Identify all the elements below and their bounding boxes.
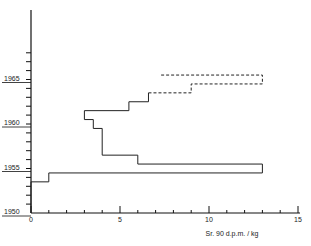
x-tick-label: 10	[205, 216, 213, 223]
x-tick-label: 5	[118, 216, 122, 223]
series	[31, 75, 262, 213]
axes	[31, 10, 300, 213]
solid-series	[31, 93, 262, 213]
y-ticks: 1950195519601965	[2, 53, 31, 216]
y-tick-label: 1955	[4, 164, 20, 171]
x-axis-label: Sr. 90 d.p.m. / kg	[206, 230, 259, 238]
x-tick-label: 0	[29, 216, 33, 223]
y-tick-label: 1960	[4, 119, 20, 126]
y-tick-label: 1965	[4, 75, 20, 82]
step-chart: 051015 1950195519601965 Sr. 90 d.p.m. / …	[0, 0, 311, 246]
x-tick-label: 15	[294, 216, 302, 223]
dashed-series	[148, 75, 262, 93]
y-tick-label: 1950	[4, 208, 20, 215]
x-ticks: 051015	[29, 206, 302, 223]
